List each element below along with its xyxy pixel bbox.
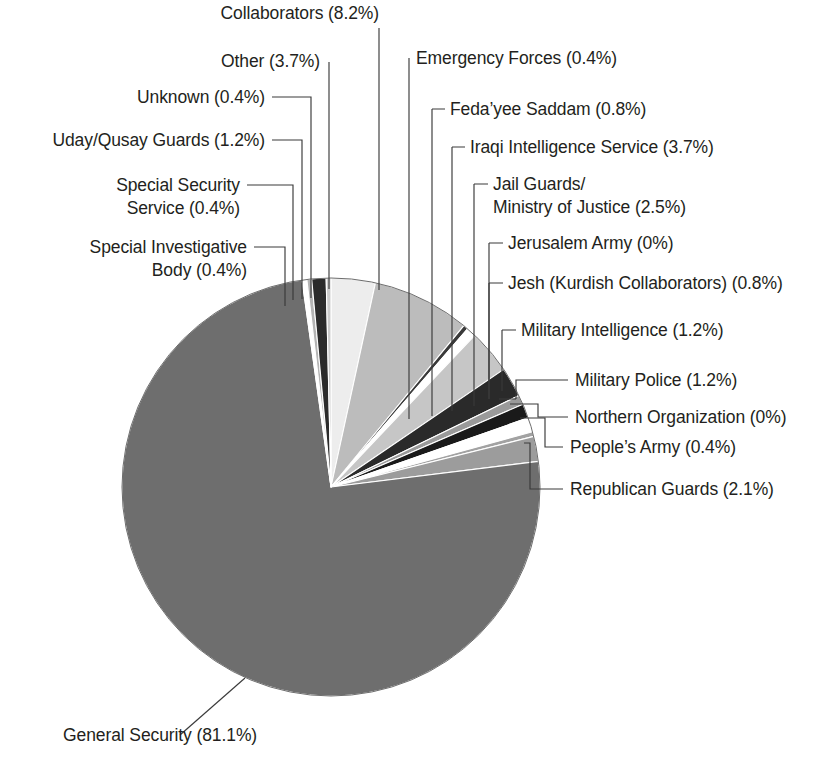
slice-label-line: Other (3.7%) bbox=[221, 51, 320, 71]
slice-label-mil-intel: Military Intelligence (1.2%) bbox=[521, 320, 723, 340]
slice-label-uday-qusay: Uday/Qusay Guards (1.2%) bbox=[52, 130, 265, 150]
slice-label-general-security: General Security (81.1%) bbox=[63, 725, 257, 745]
pie-chart-page: Other (3.7%)Collaborators (8.2%)Emergenc… bbox=[0, 0, 832, 765]
slice-label-unknown: Unknown (0.4%) bbox=[137, 87, 265, 107]
slice-label-line: Collaborators (8.2%) bbox=[221, 3, 379, 23]
slice-label-fedayee: Feda’yee Saddam (0.8%) bbox=[450, 99, 646, 119]
slice-label-jesh: Jesh (Kurdish Collaborators) (0.8%) bbox=[508, 273, 783, 293]
slice-label-northern: Northern Organization (0%) bbox=[575, 407, 786, 427]
slice-label-peoples-army: People’s Army (0.4%) bbox=[570, 437, 736, 457]
slice-label-line: Special Investigative bbox=[90, 237, 247, 257]
slice-label-line: People’s Army (0.4%) bbox=[570, 437, 736, 457]
slice-label-line: Special Security bbox=[116, 175, 240, 195]
slice-label-line: Jail Guards/ bbox=[493, 174, 585, 194]
slice-label-line: Feda’yee Saddam (0.8%) bbox=[450, 99, 646, 119]
slice-label-line: Northern Organization (0%) bbox=[575, 407, 786, 427]
slice-label-jail-guards: Jail Guards/Ministry of Justice (2.5%) bbox=[493, 174, 686, 217]
slice-label-other: Other (3.7%) bbox=[221, 51, 320, 71]
slice-label-iraqi-intel: Iraqi Intelligence Service (3.7%) bbox=[470, 137, 714, 157]
slice-label-line: Ministry of Justice (2.5%) bbox=[493, 197, 686, 217]
slice-label-line: Body (0.4%) bbox=[152, 260, 247, 280]
slice-label-special-invest: Special InvestigativeBody (0.4%) bbox=[90, 237, 247, 280]
leader-line-uday-qusay bbox=[272, 140, 302, 299]
slice-label-collaborators: Collaborators (8.2%) bbox=[221, 3, 379, 23]
leader-line-republican bbox=[524, 443, 563, 489]
slice-label-line: Uday/Qusay Guards (1.2%) bbox=[52, 130, 265, 150]
slice-label-republican: Republican Guards (2.1%) bbox=[570, 479, 774, 499]
slice-label-line: Iraqi Intelligence Service (3.7%) bbox=[470, 137, 714, 157]
pie-slices: Other (3.7%)Collaborators (8.2%)Emergenc… bbox=[122, 278, 540, 696]
slice-label-line: Emergency Forces (0.4%) bbox=[416, 48, 617, 68]
slice-label-line: General Security (81.1%) bbox=[63, 725, 257, 745]
slice-label-line: Unknown (0.4%) bbox=[137, 87, 265, 107]
slice-label-line: Jerusalem Army (0%) bbox=[508, 233, 673, 253]
slice-label-line: Military Police (1.2%) bbox=[575, 370, 737, 390]
slice-label-line: Republican Guards (2.1%) bbox=[570, 479, 774, 499]
slice-label-special-security: Special SecurityService (0.4%) bbox=[116, 175, 240, 218]
slice-label-line: Jesh (Kurdish Collaborators) (0.8%) bbox=[508, 273, 783, 293]
slice-label-line: Military Intelligence (1.2%) bbox=[521, 320, 723, 340]
slice-label-jerusalem: Jerusalem Army (0%) bbox=[508, 233, 673, 253]
slice-label-emergency: Emergency Forces (0.4%) bbox=[416, 48, 617, 68]
leader-line-unknown bbox=[272, 97, 311, 298]
slice-label-line: Service (0.4%) bbox=[127, 198, 240, 218]
slice-label-mil-police: Military Police (1.2%) bbox=[575, 370, 737, 390]
pie-chart-figure: Other (3.7%)Collaborators (8.2%)Emergenc… bbox=[0, 0, 832, 765]
